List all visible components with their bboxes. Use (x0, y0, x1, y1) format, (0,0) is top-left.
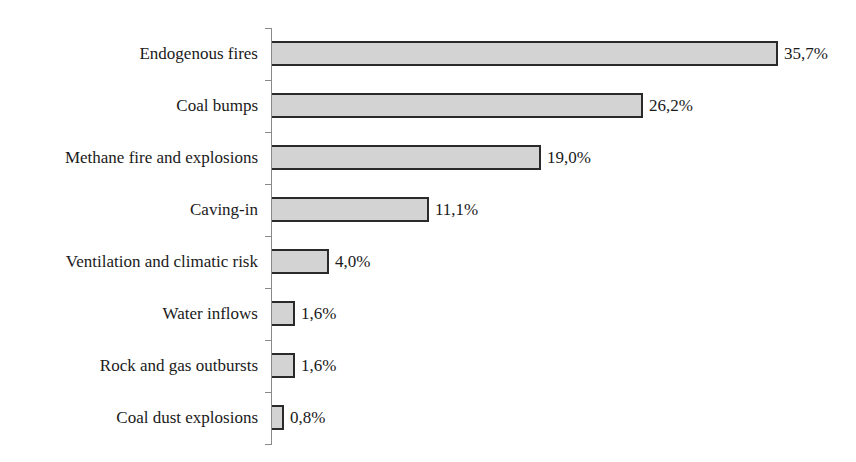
value-label: 19,0% (547, 132, 591, 184)
value-label: 4,0% (335, 236, 370, 288)
category-label: Caving-in (190, 184, 258, 236)
value-label: 35,7% (784, 28, 828, 80)
bar-row: Ventilation and climatic risk4,0% (0, 236, 856, 288)
value-label: 1,6% (301, 288, 336, 340)
bar (272, 301, 295, 326)
value-label: 0,8% (290, 392, 325, 444)
value-label: 1,6% (301, 340, 336, 392)
category-label: Water inflows (163, 288, 258, 340)
category-label: Ventilation and climatic risk (66, 236, 258, 288)
horizontal-bar-chart: Endogenous fires35,7%Coal bumps26,2%Meth… (0, 0, 856, 462)
bar (272, 145, 541, 170)
bar (272, 93, 643, 118)
bar-row: Endogenous fires35,7% (0, 28, 856, 80)
bar (272, 197, 429, 222)
bar-row: Coal bumps26,2% (0, 80, 856, 132)
bar-row: Methane fire and explosions19,0% (0, 132, 856, 184)
category-label: Rock and gas outbursts (100, 340, 258, 392)
category-label: Coal bumps (176, 80, 258, 132)
bar (272, 353, 295, 378)
bar (272, 405, 284, 430)
bar (272, 41, 778, 66)
category-label: Endogenous fires (139, 28, 258, 80)
bar (272, 249, 329, 274)
bar-row: Caving-in11,1% (0, 184, 856, 236)
bar-row: Coal dust explosions0,8% (0, 392, 856, 444)
category-label: Methane fire and explosions (65, 132, 258, 184)
bar-row: Rock and gas outbursts1,6% (0, 340, 856, 392)
value-label: 26,2% (649, 80, 693, 132)
bar-row: Water inflows1,6% (0, 288, 856, 340)
category-label: Coal dust explosions (116, 392, 258, 444)
value-label: 11,1% (435, 184, 478, 236)
axis-tick (265, 444, 272, 445)
